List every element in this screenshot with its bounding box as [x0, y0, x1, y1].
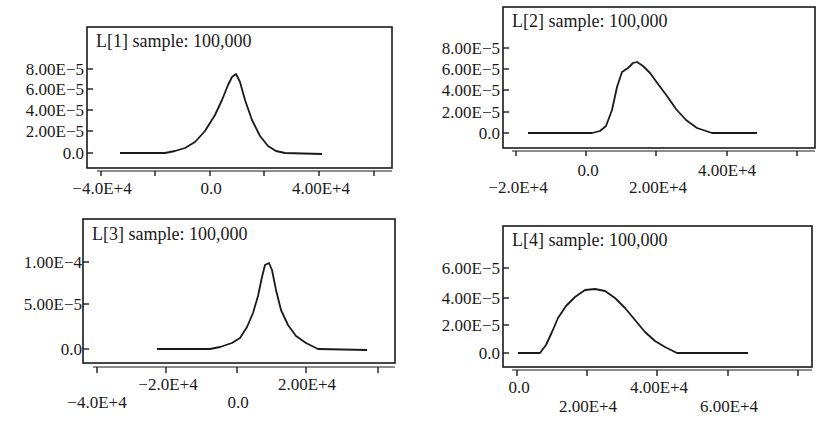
x-tick-label: 4.00E+4	[630, 378, 689, 397]
x-tick-label: −4.0E+4	[67, 393, 127, 412]
y-ticks	[503, 268, 509, 353]
panel-l1: L[1] sample: 100,000 8.00E−5 6.00E−5 4.0…	[26, 27, 392, 198]
x-tick-labels: 0.0 4.00E+4 −2.0E+4 2.00E+4	[488, 161, 756, 197]
x-ticks	[517, 370, 798, 376]
x-ticks	[97, 367, 378, 373]
y-tick-label: 4.00E−5	[442, 81, 500, 100]
density-curve	[120, 74, 322, 154]
x-tick-labels: −2.0E+4 2.00E+4 −4.0E+4 0.0	[67, 375, 336, 412]
x-tick-label: 0.0	[227, 393, 248, 412]
x-tick-labels: 0.0 4.00E+4 2.00E+4 6.00E+4	[508, 378, 758, 416]
y-tick-labels: 8.00E−5 6.00E−5 4.00E−5 2.00E−5 0.0	[26, 60, 84, 163]
y-tick-label: 8.00E−5	[442, 39, 500, 58]
panel-title: L[1] sample: 100,000	[96, 31, 251, 51]
x-tick-label: 2.00E+4	[559, 397, 618, 416]
density-curve	[157, 263, 367, 350]
y-tick-labels: 1.00E−4 5.00E−5 0.0	[24, 253, 83, 359]
y-tick-label: 6.00E−5	[26, 80, 84, 99]
x-tick-label: −2.0E+4	[138, 375, 198, 394]
y-ticks	[503, 48, 509, 133]
y-tick-label: 2.00E−5	[442, 316, 500, 335]
panel-l3: L[3] sample: 100,000 1.00E−4 5.00E−5 0.0…	[24, 219, 395, 412]
x-ticks	[516, 151, 797, 156]
x-tick-label: 4.00E+4	[698, 161, 757, 180]
panel-title: L[2] sample: 100,000	[512, 11, 667, 31]
y-tick-label: 2.00E−5	[26, 122, 84, 141]
y-tick-label: 5.00E−5	[24, 295, 82, 314]
y-tick-label: 8.00E−5	[26, 60, 84, 79]
panel-l4: L[4] sample: 100,000 6.00E−5 4.00E−5 2.0…	[442, 226, 812, 416]
x-tick-label: 0.0	[577, 161, 598, 180]
y-tick-label: 0.0	[479, 344, 500, 363]
x-tick-label: −4.0E+4	[72, 179, 132, 198]
y-ticks	[87, 69, 93, 153]
x-tick-label: −2.0E+4	[488, 178, 548, 197]
density-curve	[518, 289, 748, 353]
y-tick-label: 4.00E−5	[442, 289, 500, 308]
y-tick-labels: 8.00E−5 6.00E−5 4.00E−5 2.00E−5 0.0	[442, 39, 500, 143]
y-tick-label: 6.00E−5	[442, 60, 500, 79]
x-tick-label: 4.00E+4	[292, 179, 351, 198]
density-plots-figure: L[1] sample: 100,000 8.00E−5 6.00E−5 4.0…	[0, 0, 820, 437]
x-tick-label: 2.00E+4	[278, 375, 337, 394]
y-tick-labels: 6.00E−5 4.00E−5 2.00E−5 0.0	[442, 259, 500, 363]
panel-l2: L[2] sample: 100,000 8.00E−5 6.00E−5 4.0…	[442, 7, 815, 197]
x-ticks	[101, 171, 374, 176]
y-tick-label: 0.0	[63, 144, 84, 163]
x-tick-label: 6.00E+4	[700, 397, 759, 416]
panel-title: L[3] sample: 100,000	[92, 224, 247, 244]
y-tick-label: 0.0	[479, 124, 500, 143]
density-curve	[528, 62, 757, 133]
panel-title: L[4] sample: 100,000	[512, 230, 667, 250]
x-tick-label: 2.00E+4	[629, 178, 688, 197]
y-tick-label: 1.00E−4	[24, 253, 83, 272]
y-tick-label: 4.00E−5	[26, 101, 84, 120]
x-tick-label: 0.0	[508, 378, 529, 397]
y-tick-label: 6.00E−5	[442, 259, 500, 278]
x-tick-label: 0.0	[200, 179, 221, 198]
x-tick-labels: −4.0E+4 0.0 4.00E+4	[72, 179, 350, 198]
y-ticks	[83, 262, 89, 349]
y-tick-label: 2.00E−5	[442, 103, 500, 122]
y-tick-label: 0.0	[61, 340, 82, 359]
